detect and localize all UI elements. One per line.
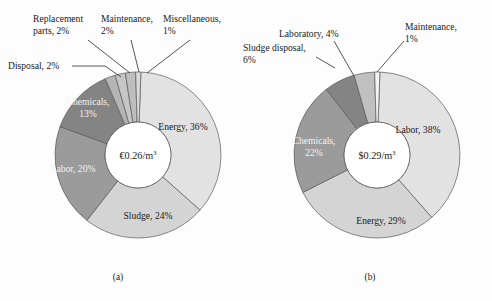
slice-label-chemicals: Chemicals, [67,96,110,107]
pie-chart-a: €0.26/m3Energy, 36%Sludge, 24%Labor, 20%… [8,13,221,238]
slice-label-miscellaneous: Miscellaneous, [163,13,221,24]
slice-label-replacement-parts-line2: parts, 2% [33,25,69,36]
subfigure-captions: (a)(b) [113,272,376,283]
slice-label-energy: Energy, 29% [356,215,405,226]
leader-line-maintenance [377,41,404,72]
slice-label-sludge-disposal-line2: 6% [243,54,256,65]
subfigure-caption-b: (b) [365,272,376,283]
slice-label-laboratory: Laboratory, 4% [279,28,339,39]
pie-charts-figure: €0.26/m3Energy, 36%Sludge, 24%Labor, 20%… [0,0,492,301]
slice-label-maintenance: Maintenance, [405,21,457,32]
leader-line-replacement-parts [88,40,130,73]
slice-label-energy: Energy, 36% [158,121,207,132]
leader-line-sludge-disposal [316,57,335,68]
slice-label-maintenance: Maintenance, [101,13,153,24]
slice-label-miscellaneous-line2: 1% [163,25,176,36]
center-value-label: €0.26/m3 [120,149,158,161]
center-value-label: $0.29/m3 [359,149,397,161]
slice-label-replacement-parts: Replacement [33,13,83,24]
slice-label-chemicals-line2: 13% [79,108,97,119]
slice-label-maintenance-line2: 1% [405,33,418,44]
slice-label-maintenance-line2: 2% [101,25,114,36]
slice-label-chemicals-line2: 22% [305,147,323,158]
leader-line-maintenance [131,40,139,72]
slice-label-sludge: Sludge, 24% [123,210,172,221]
figure-container: €0.26/m3Energy, 36%Sludge, 24%Labor, 20%… [0,0,492,301]
slice-label-chemicals: Chemicals, [293,135,336,146]
slice-label-sludge-disposal: Sludge disposal, [243,42,306,53]
leader-line-miscellaneous [147,40,190,73]
slice-label-disposal: Disposal, 2% [8,60,59,71]
pie-chart-b: $0.29/m3Labor, 38%Energy, 29%Chemicals,2… [243,21,460,238]
subfigure-caption-a: (a) [113,272,123,283]
slice-label-labor: Labor, 38% [396,124,441,135]
slice-label-labor: Labor, 20% [51,163,96,174]
leader-line-laboratory [334,41,354,76]
